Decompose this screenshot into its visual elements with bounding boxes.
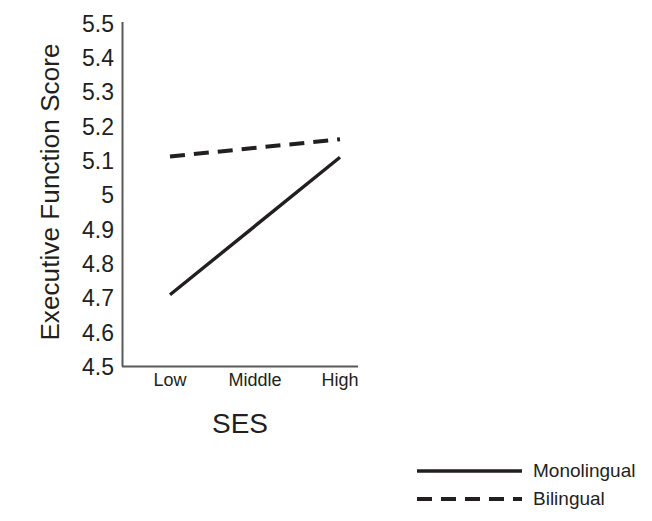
chart-legend: Monolingual Bilingual xyxy=(415,455,652,517)
legend-entry-monolingual: Monolingual xyxy=(415,457,652,485)
x-axis-tick-labels: Low Middle High xyxy=(0,368,420,396)
legend-label-monolingual: Monolingual xyxy=(533,457,635,485)
legend-entry-bilingual: Bilingual xyxy=(415,485,652,513)
legend-swatch-solid-line xyxy=(417,457,525,485)
series-line-monolingual xyxy=(170,157,340,295)
legend-swatch-dashed-line xyxy=(417,485,525,513)
series-line-bilingual xyxy=(170,139,340,156)
interaction-plot-figure: Executive Function Score 5.5 5.4 5.3 5.2… xyxy=(0,0,652,521)
x-axis-title: SES xyxy=(122,404,358,444)
plot-area xyxy=(0,0,652,400)
legend-label-bilingual: Bilingual xyxy=(533,485,605,513)
x-tick-label-high: High xyxy=(280,368,400,392)
